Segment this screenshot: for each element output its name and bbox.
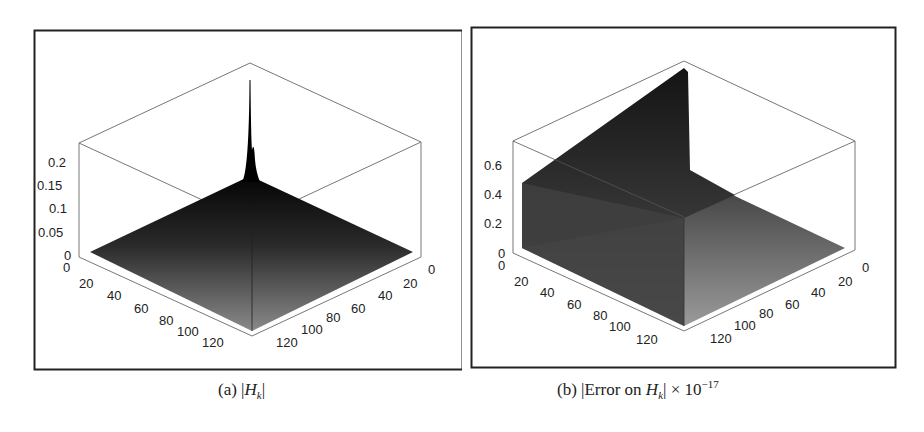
svg-text:40: 40 [540,285,554,300]
svg-text:60: 60 [567,297,581,312]
svg-text:60: 60 [785,297,799,312]
svg-text:40: 40 [811,285,825,300]
svg-text:100: 100 [734,318,756,333]
svg-text:20: 20 [838,274,852,289]
svg-text:0.6: 0.6 [484,158,502,173]
svg-text:80: 80 [593,308,607,323]
svg-text:0.2: 0.2 [484,216,502,231]
svg-text:80: 80 [759,306,773,321]
caption-b: (b) |Error on Hk| × 10−17 [557,378,719,401]
svg-text:0: 0 [498,258,505,273]
svg-text:0.4: 0.4 [484,187,502,202]
panel-b: 0.6 0.4 0.2 0 0 20 40 60 80 100 120 0 20… [0,0,924,432]
surface-plot-b: 0.6 0.4 0.2 0 0 20 40 60 80 100 120 0 20… [0,0,924,432]
svg-text:120: 120 [636,332,658,347]
svg-text:0: 0 [862,260,869,275]
svg-text:100: 100 [609,319,631,334]
svg-text:120: 120 [710,331,732,346]
svg-text:20: 20 [514,274,528,289]
